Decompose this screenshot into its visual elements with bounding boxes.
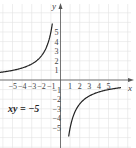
x-tick-label: −2 xyxy=(37,82,46,91)
curve-branch-right xyxy=(69,88,121,137)
x-tick-label: 2 xyxy=(78,82,82,91)
y-tick-label: −3 xyxy=(53,105,62,114)
x-tick-label: 4 xyxy=(97,82,101,91)
y-tick-label: 5 xyxy=(55,28,59,37)
x-tick-label: −4 xyxy=(18,82,27,91)
x-tick-label: −5 xyxy=(9,82,18,91)
grid-lines xyxy=(0,4,131,148)
x-axis-arrow-icon xyxy=(128,78,134,82)
curve-branch-left xyxy=(0,24,52,73)
y-tick-label: 3 xyxy=(55,47,59,56)
x-axis-label: x xyxy=(127,83,132,93)
y-tick-label: −2 xyxy=(53,95,62,104)
y-axis-label: y xyxy=(51,1,56,11)
y-tick-label: −4 xyxy=(53,114,62,123)
equation-label: xy = −5 xyxy=(7,103,39,114)
y-tick-label: −1 xyxy=(53,86,62,95)
axes xyxy=(0,3,134,148)
y-tick-label: 1 xyxy=(55,66,59,75)
x-tick-label: −3 xyxy=(28,82,37,91)
hyperbola-chart: −5−4−3−2−11234554321−1−2−3−4−5 x y xy = … xyxy=(0,0,136,148)
y-tick-label: 4 xyxy=(55,38,59,47)
y-axis-arrow-icon xyxy=(59,3,63,9)
y-tick-label: 2 xyxy=(55,57,59,66)
tick-labels: −5−4−3−2−11234554321−1−2−3−4−5 xyxy=(9,28,111,133)
x-tick-label: 3 xyxy=(87,82,91,91)
y-tick-label: −5 xyxy=(53,124,62,133)
x-tick-label: 1 xyxy=(68,82,72,91)
